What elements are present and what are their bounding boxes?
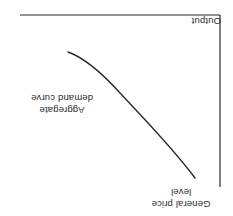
aggregate-demand-figure: Output General price level Aggregate dem… [0,0,233,216]
y-axis-label-line-1: General price [143,199,219,211]
curve-annotation: Aggregate demand curve [16,93,108,116]
curve-annotation-line-2: demand curve [16,93,108,105]
x-axis-label: Output [192,16,221,28]
curve-annotation-line-1: Aggregate [16,105,108,117]
y-axis-label: General price level [143,187,219,210]
y-axis-label-line-2: level [143,187,219,199]
rotated-diagram-canvas: Output General price level Aggregate dem… [0,0,233,216]
